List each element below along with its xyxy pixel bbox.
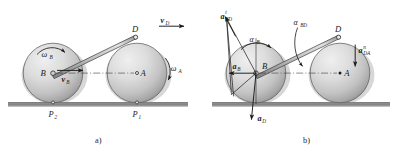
svg-text:a: a (257, 114, 261, 123)
label-point-D-b: D (334, 24, 342, 34)
svg-text:BD: BD (225, 16, 232, 22)
svg-text:P: P (48, 110, 54, 119)
label-aD-b: a D (257, 114, 266, 124)
label-aBD-t-b: a BD t (220, 9, 232, 21)
panel-b: B A D a BD t a B a D a DA n α (212, 9, 390, 145)
center-A-b (339, 72, 342, 75)
svg-text:P: P (132, 110, 138, 119)
svg-text:D: D (261, 118, 266, 124)
label-P2-a: P 2 (48, 110, 58, 120)
svg-text:D: D (164, 20, 169, 26)
label-point-A-b: A (343, 68, 350, 78)
svg-text:BD: BD (300, 22, 307, 28)
svg-text:A: A (178, 68, 183, 74)
alpha-BD-pointer-b (295, 28, 303, 67)
center-A-a (136, 72, 139, 75)
svg-text:DA: DA (362, 50, 371, 56)
ground-line-a (8, 103, 188, 107)
svg-text:2: 2 (54, 114, 57, 120)
svg-text:v: v (161, 16, 165, 25)
svg-text:t: t (225, 9, 227, 15)
label-point-B-a: B (41, 68, 47, 78)
mechanics-figure: B A D P 2 P 1 ω B ω A v D (0, 0, 402, 152)
svg-text:a: a (220, 12, 224, 21)
pin-B-a (51, 71, 56, 76)
svg-text:a: a (358, 46, 362, 55)
svg-text:v: v (61, 75, 65, 84)
figure-canvas: B A D P 2 P 1 ω B ω A v D (0, 0, 402, 152)
pin-D-a (134, 35, 138, 39)
label-aDA-n-b: a DA n (358, 44, 371, 56)
contact-P2-a (52, 101, 55, 104)
svg-text:1: 1 (138, 114, 141, 120)
svg-text:a: a (232, 62, 236, 71)
label-alpha-BD-b: α BD (293, 18, 307, 28)
caption-a: a) (95, 136, 102, 145)
label-point-D-a: D (131, 24, 139, 34)
label-vD-a: v D (161, 16, 170, 26)
contact-P1-a (136, 101, 139, 104)
panel-a: B A D P 2 P 1 ω B ω A v D (8, 16, 188, 145)
pin-D-b (337, 35, 341, 39)
svg-text:ω: ω (171, 64, 177, 73)
label-P1-a: P 1 (132, 110, 142, 120)
caption-b: b) (303, 136, 310, 145)
svg-text:α: α (293, 18, 298, 27)
label-point-B-b: B (262, 61, 268, 71)
label-omega-A-a: ω A (171, 64, 183, 74)
ground-line-b (212, 103, 390, 107)
label-point-A-a: A (140, 68, 147, 78)
svg-text:n: n (363, 44, 366, 50)
svg-text:ω: ω (42, 50, 48, 59)
